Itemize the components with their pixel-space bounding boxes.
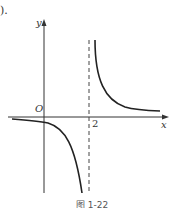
function-graph [0, 0, 171, 208]
origin-label: O [35, 104, 43, 114]
tick-label-2: 2 [92, 119, 98, 129]
x-axis-label: x [161, 120, 167, 130]
curve-right-branch [95, 40, 160, 111]
y-axis-label: y [36, 18, 42, 28]
y-axis-arrow-icon [42, 19, 47, 26]
curve-left-branch [12, 119, 82, 193]
figure-caption: 图 1-22 [76, 198, 108, 208]
